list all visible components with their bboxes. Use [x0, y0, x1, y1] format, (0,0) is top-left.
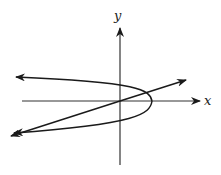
y-axis-label: y	[113, 8, 122, 23]
diagram-canvas: x y	[0, 0, 221, 175]
line-through-origin-lower	[11, 101, 120, 136]
x-axis-label: x	[204, 93, 212, 108]
line-through-origin	[120, 80, 186, 101]
